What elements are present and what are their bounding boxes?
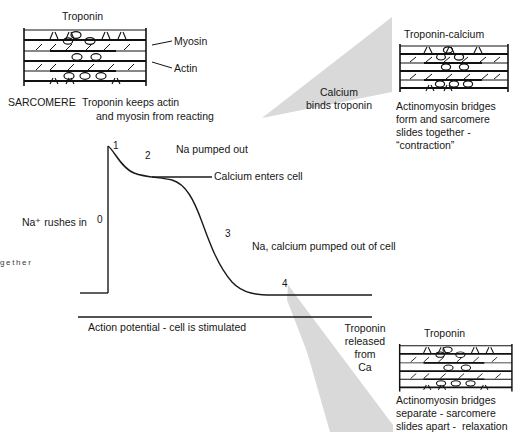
- phase-4-label: 4: [282, 278, 288, 289]
- calcium-binds-troponin-line1: Calcium: [300, 86, 378, 99]
- relaxing-sarcomere-figure: [400, 344, 512, 392]
- troponin-released-line3: from: [336, 348, 394, 361]
- phase-3-label: 3: [225, 228, 231, 239]
- na-calcium-pumped-out-label: Na, calcium pumped out of cell: [252, 240, 396, 253]
- relaxed-sarcomere-heading: Troponin: [62, 10, 103, 23]
- contracted-caption-line3: slides together -: [396, 126, 471, 139]
- contracted-caption-line2: form and sarcomere: [396, 113, 490, 126]
- relaxing-caption-line2: separate - sarcomere: [396, 407, 496, 420]
- action-potential-trace: [80, 146, 372, 295]
- na-pumped-out-label: Na pumped out: [176, 143, 248, 156]
- relaxed-sarcomere-figure: [24, 28, 146, 86]
- contracted-caption-line1: Actinomyosin bridges: [396, 100, 496, 113]
- troponin-released-line1: Troponin: [336, 322, 394, 335]
- sarcomere-caption-line2: and myosin from reacting: [96, 110, 214, 123]
- contracted-sarcomere-figure: [400, 44, 508, 92]
- relaxing-sarcomere-heading: Troponin: [424, 327, 465, 340]
- myosin-label: Myosin: [174, 35, 207, 48]
- calcium-enters-cell-label: Calcium enters cell: [214, 170, 303, 183]
- calcium-binds-troponin-line2: binds troponin: [292, 99, 386, 112]
- contracted-sarcomere-heading: Troponin-calcium: [404, 28, 484, 41]
- margin-note: g e t h e r: [0, 258, 31, 269]
- phase-2-label: 2: [145, 150, 151, 161]
- sarcomere-caption-bold: SARCOMERE: [8, 96, 76, 109]
- actin-label: Actin: [174, 62, 197, 75]
- troponin-released-line2: released: [336, 335, 394, 348]
- phase-1-label: 1: [113, 140, 119, 151]
- actin-leader-line: [152, 62, 172, 68]
- na-rushes-in-label: Na⁺ rushes in: [22, 216, 87, 229]
- diagram-canvas: Troponin Myosin Actin SARCOMERE Troponin…: [0, 0, 521, 437]
- sarcomere-caption-line1: Troponin keeps actin: [82, 96, 179, 109]
- action-potential-axis-caption: Action potential - cell is stimulated: [88, 321, 246, 334]
- phase-0-label: 0: [97, 214, 103, 225]
- troponin-released-line4: Ca: [336, 361, 394, 374]
- relaxing-caption-line3: slides apart - relaxation: [396, 420, 507, 433]
- contracted-caption-line4: “contraction”: [396, 139, 454, 152]
- myosin-leader-line: [152, 41, 172, 45]
- relaxing-caption-line1: Actinomyosin bridges: [396, 394, 496, 407]
